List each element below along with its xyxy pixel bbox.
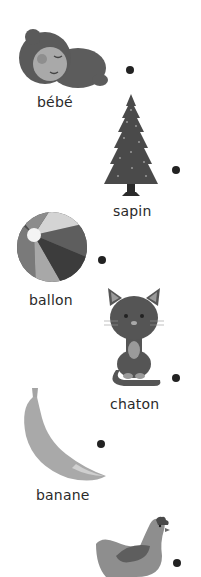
beach-ball-icon	[16, 211, 88, 283]
fir-tree-icon	[102, 92, 160, 200]
connect-dot[interactable]	[126, 66, 134, 74]
banana-icon	[22, 388, 108, 484]
kitten-icon	[104, 288, 166, 390]
word-label: ballon	[29, 292, 73, 308]
connect-dot[interactable]	[97, 440, 105, 448]
word-label: bébé	[37, 94, 73, 110]
word-label: banane	[36, 487, 90, 503]
hen-icon	[96, 516, 172, 577]
connect-dot[interactable]	[172, 166, 180, 174]
connect-dot[interactable]	[172, 374, 180, 382]
connect-dot[interactable]	[98, 256, 106, 264]
word-label: chaton	[110, 396, 159, 412]
baby-icon	[10, 28, 110, 90]
word-label: sapin	[113, 203, 152, 219]
connect-dot[interactable]	[173, 559, 181, 567]
